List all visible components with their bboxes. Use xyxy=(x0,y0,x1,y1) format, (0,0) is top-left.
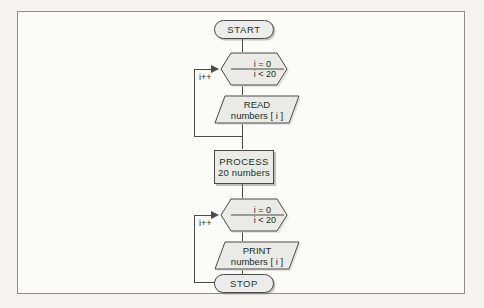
node-process-line2: 20 numbers xyxy=(218,167,270,178)
node-stop: STOP xyxy=(214,274,274,293)
node-start-label: START xyxy=(227,24,260,35)
node-loop-1-line1: i = 0 xyxy=(254,59,271,69)
node-loop-2-line2: i < 20 xyxy=(254,215,276,225)
node-read-line2: numbers [ i ] xyxy=(231,110,283,121)
node-loop-2-text: i = 0 i < 20 xyxy=(232,205,276,225)
node-loop-1-line2: i < 20 xyxy=(254,69,276,79)
node-loop-2-increment: i++ xyxy=(199,218,212,228)
node-read: READ numbers [ i ] xyxy=(215,96,299,123)
node-start: START xyxy=(214,20,274,39)
node-read-line1: READ xyxy=(244,99,270,110)
node-print: PRINT numbers [ i ] xyxy=(215,242,299,269)
node-loop-1-text: i = 0 i < 20 xyxy=(232,59,276,79)
flowchart-canvas: START i = 0 i < 20 i++ READ numbers [ i … xyxy=(18,12,466,295)
node-stop-label: STOP xyxy=(230,278,258,289)
node-print-text: PRINT numbers [ i ] xyxy=(215,242,299,269)
node-process-line1: PROCESS xyxy=(219,156,268,167)
node-print-line2: numbers [ i ] xyxy=(231,256,283,267)
node-loop-2: i = 0 i < 20 xyxy=(221,199,287,231)
diagram-frame: START i = 0 i < 20 i++ READ numbers [ i … xyxy=(17,11,465,294)
node-loop-1-increment: i++ xyxy=(199,72,212,82)
node-process: PROCESS 20 numbers xyxy=(214,150,274,184)
node-read-text: READ numbers [ i ] xyxy=(215,96,299,123)
node-loop-1: i = 0 i < 20 xyxy=(221,53,287,85)
node-print-line1: PRINT xyxy=(243,245,272,256)
node-loop-2-line1: i = 0 xyxy=(254,205,271,215)
screenshot-page: START i = 0 i < 20 i++ READ numbers [ i … xyxy=(0,0,484,308)
